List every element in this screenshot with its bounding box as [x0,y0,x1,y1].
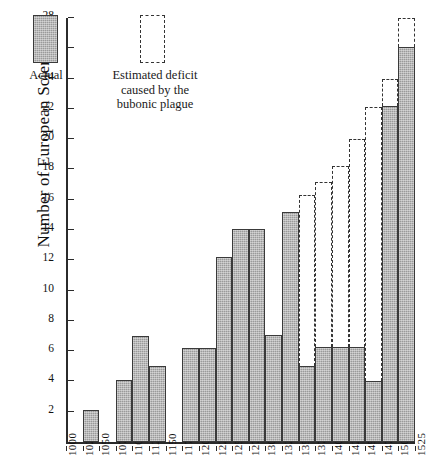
y-tick-mark [68,229,74,230]
bar-actual [149,366,166,442]
y-tick-label: 12 [43,251,55,263]
y-tick-label: 10 [43,282,55,294]
y-tick-mark [68,138,74,139]
bar-actual [182,348,199,442]
bar-estimated-deficit [315,182,332,347]
y-tick-mark [68,290,74,291]
bar-estimated-deficit [398,18,415,47]
y-tick-mark [68,47,74,48]
y-tick-label: 2 [48,403,54,415]
bar-actual [282,212,299,442]
y-tick-label: 28 [43,9,55,21]
y-tick-mark [68,108,74,109]
bar-actual [83,410,100,442]
y-tick-label: 24 [43,70,55,82]
bar-actual [398,47,415,442]
y-tick-label: 26 [43,39,55,51]
y-tick-mark [68,168,74,169]
bar-actual [349,347,366,442]
y-tick-mark [68,320,74,321]
y-tick-mark [68,259,74,260]
bar-estimated-deficit [332,166,349,346]
plot-area: 246810121416182022242628 100010251050107… [66,18,415,444]
bar-estimated-deficit [299,195,316,366]
bar-actual [382,106,399,442]
y-tick-mark [68,411,74,412]
bar-actual [116,380,133,442]
y-tick-label: 6 [48,342,54,354]
x-tick-label: 1000 [66,433,78,456]
bar-actual [216,257,233,442]
bar-actual [332,347,349,442]
y-tick-label: 16 [43,191,55,203]
bar-estimated-deficit [349,139,366,346]
bar-actual [199,348,216,442]
bar-actual [365,381,382,442]
x-tick-label: 1525 [415,433,427,456]
y-tick-label: 20 [43,130,55,142]
y-tick-mark [68,17,74,18]
bar-actual [315,347,332,442]
y-tick-label: 4 [48,372,54,384]
y-tick-mark [68,78,74,79]
x-tick-label: 1050 [99,433,111,456]
bar-actual [249,229,266,443]
bar-actual [232,229,249,443]
bar-estimated-deficit [365,107,382,381]
bar-actual [265,335,282,443]
y-tick-mark [68,350,74,351]
y-tick-mark [68,380,74,381]
x-tick-label: 1150 [166,433,178,456]
y-tick-label: 22 [43,100,55,112]
y-tick-label: 18 [43,160,55,172]
bar-actual [299,366,316,442]
y-tick-mark [68,199,74,200]
bar-estimated-deficit [382,79,399,106]
y-tick-label: 8 [48,312,54,324]
bar-actual [132,336,149,442]
y-tick-label: 14 [43,221,55,233]
